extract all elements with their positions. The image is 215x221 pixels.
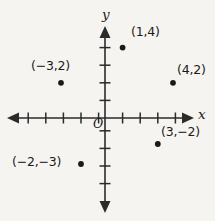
point-label-p1: (1,4)	[131, 26, 160, 39]
point-label-p3: (4,2)	[177, 64, 206, 77]
y-axis-label: y	[102, 8, 110, 22]
point-label-p4: (3,−2)	[161, 126, 200, 139]
coordinate-plane-figure: (1,4) (−3,2) (4,2) (3,−2) (−2,−3) x y O	[0, 0, 215, 221]
x-axis-left-arrow-icon	[7, 113, 19, 124]
coordinate-plane-svg	[0, 0, 215, 221]
x-axis-right-arrow-icon	[182, 113, 194, 124]
origin-label: O	[93, 118, 103, 131]
data-point-p5	[78, 161, 84, 167]
point-label-p2: (−3,2)	[31, 60, 70, 73]
x-axis-label: x	[198, 108, 206, 122]
y-axis-down-arrow-icon	[100, 201, 111, 213]
data-point-p4	[155, 141, 161, 147]
data-point-p2	[58, 80, 64, 86]
point-label-p5: (−2,−3)	[12, 156, 61, 169]
data-point-p1	[120, 45, 126, 51]
data-point-p3	[170, 80, 176, 86]
y-axis-up-arrow-icon	[100, 26, 111, 38]
